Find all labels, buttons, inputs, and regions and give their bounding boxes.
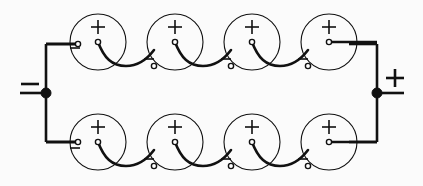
cell-negative-terminal[interactable] xyxy=(75,139,80,144)
negative-output-group xyxy=(20,44,78,142)
cell-top-3[interactable] xyxy=(221,14,280,70)
positive-output-group xyxy=(349,44,404,142)
cell-negative-terminal[interactable] xyxy=(228,63,233,68)
cell-positive-terminal[interactable] xyxy=(172,39,177,44)
cell-bottom-2[interactable] xyxy=(144,114,203,170)
cell-negative-terminal[interactable] xyxy=(151,163,156,168)
top-string-links xyxy=(46,42,377,66)
cell-positive-terminal[interactable] xyxy=(249,139,254,144)
cell-positive-terminal[interactable] xyxy=(95,139,100,144)
cell-top-1[interactable] xyxy=(70,14,126,70)
cell-bottom-3[interactable] xyxy=(221,114,280,170)
cell-negative-terminal[interactable] xyxy=(228,163,233,168)
cell-negative-terminal[interactable] xyxy=(75,41,80,46)
cell-positive-terminal[interactable] xyxy=(326,139,331,144)
circuit-schematic-canvas xyxy=(0,0,423,186)
negative-junction-node xyxy=(41,88,51,98)
cell-top-2[interactable] xyxy=(144,14,203,70)
cell-negative-terminal[interactable] xyxy=(151,63,156,68)
cell-positive-terminal[interactable] xyxy=(326,39,331,44)
bottom-string-links xyxy=(46,142,377,166)
circuit-diagram-root: Eight cells connected in two parallel st… xyxy=(0,0,423,186)
cell-bottom-1[interactable] xyxy=(70,114,126,170)
cell-negative-terminal[interactable] xyxy=(305,63,310,68)
cell-positive-terminal[interactable] xyxy=(95,39,100,44)
cell-positive-terminal[interactable] xyxy=(172,139,177,144)
cell-positive-terminal[interactable] xyxy=(249,39,254,44)
positive-junction-node xyxy=(372,88,382,98)
cell-negative-terminal[interactable] xyxy=(305,163,310,168)
